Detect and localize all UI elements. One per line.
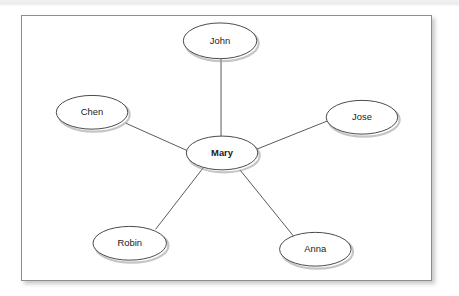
- edge-mary-robin: [156, 168, 204, 230]
- node-anna[interactable]: Anna: [280, 232, 353, 268]
- node-label-jose: Jose: [352, 111, 372, 122]
- node-robin[interactable]: Robin: [93, 226, 168, 262]
- network-graph: MaryJohnChenJoseRobinAnna: [22, 16, 431, 280]
- node-mary[interactable]: Mary: [186, 136, 259, 172]
- edge-mary-anna: [240, 170, 295, 237]
- node-john[interactable]: John: [183, 23, 258, 61]
- node-jose[interactable]: Jose: [326, 100, 399, 136]
- diagram-frame: MaryJohnChenJoseRobinAnna: [21, 15, 432, 281]
- edge-mary-chen: [126, 123, 191, 152]
- node-label-mary: Mary: [211, 147, 234, 158]
- node-label-john: John: [210, 35, 230, 46]
- node-label-robin: Robin: [117, 237, 142, 248]
- node-label-chen: Chen: [81, 106, 104, 117]
- top-decorative-strip: [0, 0, 459, 6]
- node-label-anna: Anna: [304, 243, 327, 254]
- node-chen[interactable]: Chen: [56, 95, 129, 131]
- nodes-group: MaryJohnChenJoseRobinAnna: [56, 23, 399, 269]
- edge-mary-jose: [255, 120, 329, 150]
